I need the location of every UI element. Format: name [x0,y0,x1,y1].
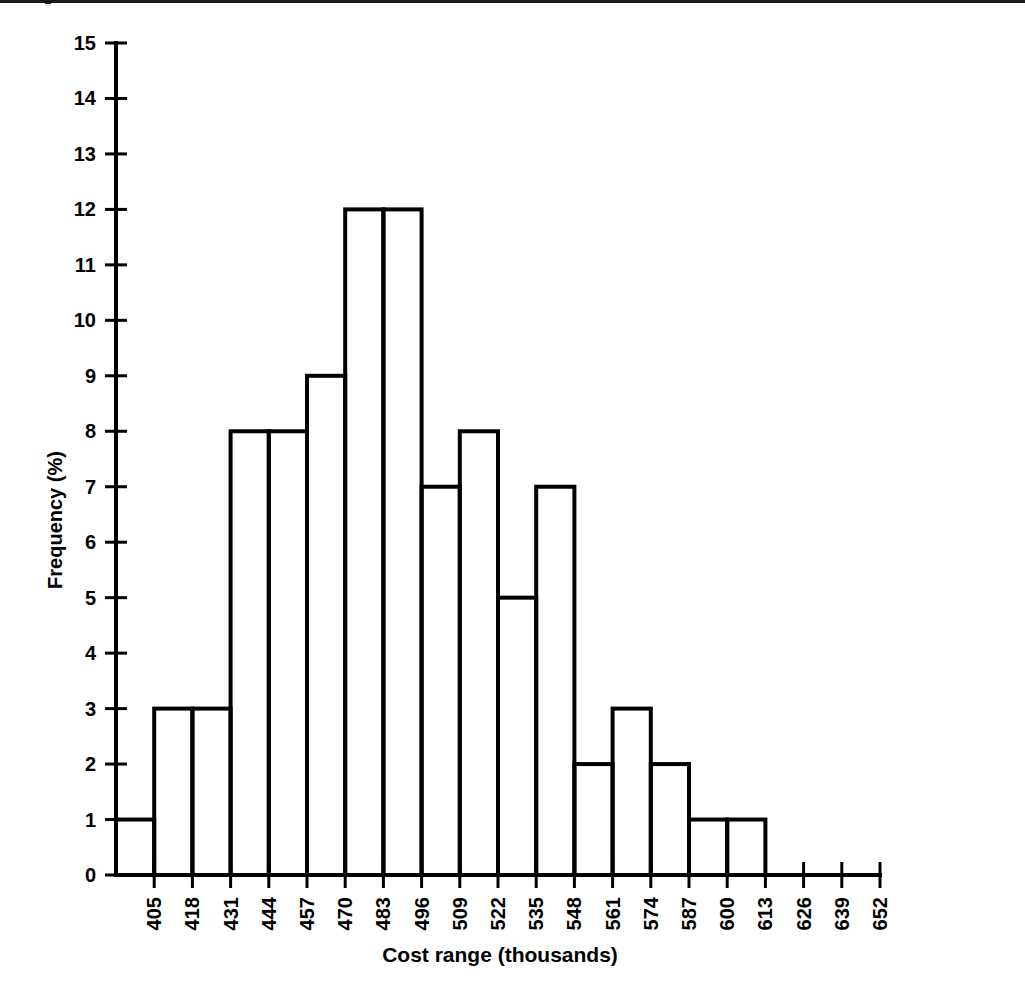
histogram-bar [345,209,383,875]
chart-canvas: 0123456789101112131415 40541843144445747… [0,0,1025,1000]
x-tick-label: 509 [449,897,471,930]
x-tick-label: 457 [296,897,318,930]
y-tick-label: 14 [74,87,97,109]
x-tick-label: 522 [487,897,509,930]
histogram-bar [383,209,421,875]
x-tick-label: 600 [716,897,738,930]
histogram-bar [116,820,154,875]
x-tick-label: 587 [678,897,700,930]
histogram-bar [154,709,192,875]
histogram-bar [536,487,574,875]
x-tick-label: 496 [411,897,433,930]
x-tick-label: 483 [372,897,394,930]
x-tick-labels: 4054184314444574704834965095225355485615… [143,896,891,930]
y-tick-label: 4 [85,642,97,664]
histogram-bar [689,820,727,875]
x-tick-label: 470 [334,897,356,930]
y-tick-label: 5 [85,587,96,609]
x-tick-label: 431 [220,897,242,930]
y-tick-label: 7 [85,476,96,498]
y-tick-labels: 0123456789101112131415 [74,32,97,886]
x-tick-label: 561 [602,897,624,930]
x-tick-label: 613 [754,897,776,930]
y-tick-label: 8 [85,420,96,442]
x-tick-label: 652 [869,897,891,930]
y-tick-label: 6 [85,531,96,553]
histogram-bar [422,487,460,875]
histogram-bar [613,709,651,875]
y-tick-label: 15 [74,32,96,54]
y-tick-label: 2 [85,753,96,775]
x-tick-label: 574 [640,896,662,930]
y-tick-label: 9 [85,365,96,387]
histogram-bar [192,709,230,875]
x-tick-label: 548 [563,897,585,930]
x-tick-label: 418 [181,897,203,930]
x-tick-label: 535 [525,897,547,930]
histogram-figure: 0123456789101112131415 40541843144445747… [0,0,1025,1000]
x-axis-title: Cost range (thousands) [382,943,618,966]
histogram-bar [498,598,536,875]
histogram-bar [307,376,345,875]
x-tick-label: 444 [258,896,280,930]
y-tick-label: 13 [74,143,96,165]
y-axis-title: Frequency (%) [44,451,66,589]
histogram-bar [574,764,612,875]
bars-group [116,209,765,875]
histogram-bar [231,431,269,875]
histogram-bar [269,431,307,875]
histogram-bar [460,431,498,875]
y-tick-label: 11 [75,254,96,276]
x-tick-label: 626 [793,897,815,930]
y-tick-label: 1 [85,809,96,831]
y-tick-label: 3 [85,698,96,720]
y-tick-label: 0 [85,864,96,886]
y-tick-label: 10 [74,309,96,331]
x-tick-label: 405 [143,897,165,930]
y-tick-label: 12 [74,198,96,220]
histogram-bar [651,764,689,875]
histogram-bar [727,820,765,875]
x-tick-label: 639 [831,897,853,930]
